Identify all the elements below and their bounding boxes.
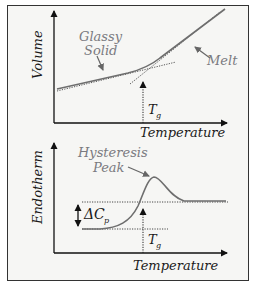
bottom-tg-subscript: g: [156, 241, 161, 250]
delta-cp-subscript: p: [104, 216, 109, 225]
bottom-y-axis-label: Endotherm: [30, 150, 45, 225]
hysteresis-label: Hysteresis: [77, 145, 148, 160]
top-x-axis-label: Temperature: [140, 125, 225, 140]
bottom-panel: Hysteresis Peak ΔC p T g Temperature End…: [30, 143, 228, 273]
bottom-x-axis-label: Temperature: [133, 258, 218, 273]
top-panel: Glassy Solid Melt T g Temperature Volume: [30, 9, 238, 140]
top-y-axis-label: Volume: [30, 30, 45, 79]
hysteresis-pointer-arrow: [128, 167, 149, 176]
peak-label: Peak: [92, 160, 125, 175]
solid-label: Solid: [84, 43, 117, 58]
delta-cp-label: ΔC: [83, 206, 105, 222]
glass-extrapolation-dotted: [57, 62, 176, 91]
glassy-label: Glassy: [79, 29, 123, 44]
top-tg-subscript: g: [156, 111, 161, 120]
glassy-solid-pointer-arrow: [97, 56, 103, 70]
volume-curve: [57, 9, 225, 89]
melt-label: Melt: [206, 53, 238, 68]
glass-transition-diagram: Glassy Solid Melt T g Temperature Volume…: [0, 0, 256, 287]
